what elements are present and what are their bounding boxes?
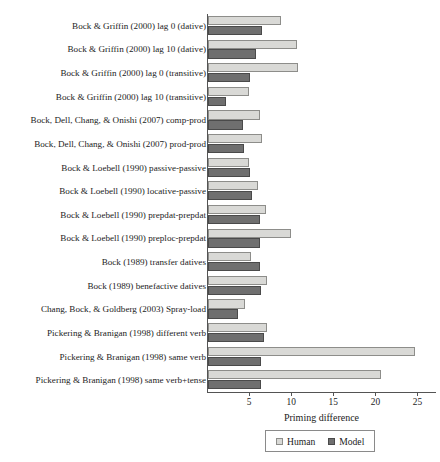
legend-swatch-human-icon (276, 438, 283, 445)
category-label: Bock & Griffin (2000) lag 0 (dative) (72, 21, 206, 31)
bar-model (208, 73, 250, 82)
legend-item-model: Model (328, 436, 364, 447)
bar-model (208, 286, 261, 295)
chart-row: Bock (1989) benefactive datives (0, 274, 440, 298)
bar-model (208, 215, 260, 224)
bar-human (208, 229, 291, 238)
bar-group (208, 321, 440, 345)
category-label: Bock (1989) benefactive datives (87, 281, 206, 291)
bar-group (208, 156, 440, 180)
bar-human (208, 158, 249, 167)
bar-human (208, 205, 266, 214)
bar-group (208, 274, 440, 298)
category-label: Bock & Loebell (1990) preploc-prepdat (60, 233, 206, 243)
x-tick (249, 392, 250, 396)
x-axis-line (207, 392, 436, 393)
chart-row: Bock & Griffin (2000) lag 10 (transitive… (0, 85, 440, 109)
bar-human (208, 134, 262, 143)
category-label: Bock & Griffin (2000) lag 10 (transitive… (56, 92, 206, 102)
bar-human (208, 40, 297, 49)
chart-row: Bock & Griffin (2000) lag 10 (dative) (0, 38, 440, 62)
bar-model (208, 168, 250, 177)
bar-group (208, 85, 440, 109)
bar-group (208, 38, 440, 62)
bar-model (208, 262, 260, 271)
bar-human (208, 252, 251, 261)
bar-group (208, 109, 440, 133)
legend-label-model: Model (339, 436, 364, 447)
x-tick-label: 5 (247, 397, 252, 407)
chart-row: Bock & Loebell (1990) preploc-prepdat (0, 227, 440, 251)
bar-group (208, 132, 440, 156)
category-label: Pickering & Branigan (1998) different ve… (47, 328, 206, 338)
chart-row: Bock & Loebell (1990) prepdat-prepdat (0, 203, 440, 227)
bar-model (208, 49, 256, 58)
chart-row: Bock & Loebell (1990) locative-passive (0, 179, 440, 203)
x-tick (417, 392, 418, 396)
bar-model (208, 333, 264, 342)
bar-group (208, 14, 440, 38)
y-axis-line (207, 14, 208, 392)
x-axis-title: Priming difference (207, 412, 436, 423)
x-tick-label: 15 (329, 397, 338, 407)
chart-row: Pickering & Branigan (1998) same verb+te… (0, 368, 440, 392)
x-tick (375, 392, 376, 396)
bar-human (208, 16, 281, 25)
category-label: Bock (1989) transfer datives (102, 257, 206, 267)
legend-item-human: Human (276, 436, 315, 447)
category-label: Pickering & Branigan (1998) same verb+te… (36, 375, 206, 385)
legend-swatch-model-icon (328, 438, 335, 445)
bar-human (208, 181, 258, 190)
x-tick (291, 392, 292, 396)
x-tick-label: 25 (413, 397, 422, 407)
bar-group (208, 179, 440, 203)
chart-row: Bock & Griffin (2000) lag 0 (dative) (0, 14, 440, 38)
bar-human (208, 323, 267, 332)
bar-model (208, 309, 238, 318)
category-label: Bock, Dell, Chang, & Onishi (2007) comp-… (31, 115, 206, 125)
bar-human (208, 347, 415, 356)
bar-model (208, 357, 261, 366)
category-label: Bock & Griffin (2000) lag 10 (dative) (68, 44, 206, 54)
bar-group (208, 298, 440, 322)
chart-row: Pickering & Branigan (1998) same verb (0, 345, 440, 369)
bar-model (208, 238, 260, 247)
chart-row: Pickering & Branigan (1998) different ve… (0, 321, 440, 345)
chart-row: Chang, Bock, & Goldberg (2003) Spray-loa… (0, 298, 440, 322)
category-label: Bock, Dell, Chang, & Onishi (2007) prod-… (34, 139, 206, 149)
bar-human (208, 370, 381, 379)
category-label: Chang, Bock, & Goldberg (2003) Spray-loa… (41, 304, 206, 314)
x-tick-label: 20 (371, 397, 380, 407)
chart-row: Bock & Loebell (1990) passive-passive (0, 156, 440, 180)
chart-row: Bock, Dell, Chang, & Onishi (2007) prod-… (0, 132, 440, 156)
bar-group (208, 345, 440, 369)
category-label: Bock & Loebell (1990) locative-passive (59, 186, 206, 196)
bar-human (208, 110, 260, 119)
bar-group (208, 250, 440, 274)
bar-human (208, 87, 249, 96)
bar-model (208, 97, 226, 106)
bar-human (208, 299, 245, 308)
bar-model (208, 120, 243, 129)
bar-model (208, 380, 261, 389)
bar-model (208, 26, 262, 35)
x-tick-label: 10 (287, 397, 296, 407)
chart-row: Bock, Dell, Chang, & Onishi (2007) comp-… (0, 109, 440, 133)
bar-group (208, 203, 440, 227)
legend-label-human: Human (287, 436, 315, 447)
bar-human (208, 276, 267, 285)
priming-difference-bar-chart: Bock & Griffin (2000) lag 0 (dative)Bock… (0, 0, 440, 462)
bar-group (208, 227, 440, 251)
chart-legend: Human Model (265, 430, 375, 452)
bar-group (208, 368, 440, 392)
plot-area: Bock & Griffin (2000) lag 0 (dative)Bock… (0, 14, 440, 392)
category-label: Bock & Griffin (2000) lag 0 (transitive) (60, 68, 206, 78)
bar-human (208, 63, 298, 72)
bar-model (208, 191, 252, 200)
category-label: Bock & Loebell (1990) passive-passive (61, 163, 206, 173)
bar-group (208, 61, 440, 85)
chart-row: Bock & Griffin (2000) lag 0 (transitive) (0, 61, 440, 85)
chart-row: Bock (1989) transfer datives (0, 250, 440, 274)
category-label: Bock & Loebell (1990) prepdat-prepdat (60, 210, 206, 220)
category-label: Pickering & Branigan (1998) same verb (60, 352, 206, 362)
